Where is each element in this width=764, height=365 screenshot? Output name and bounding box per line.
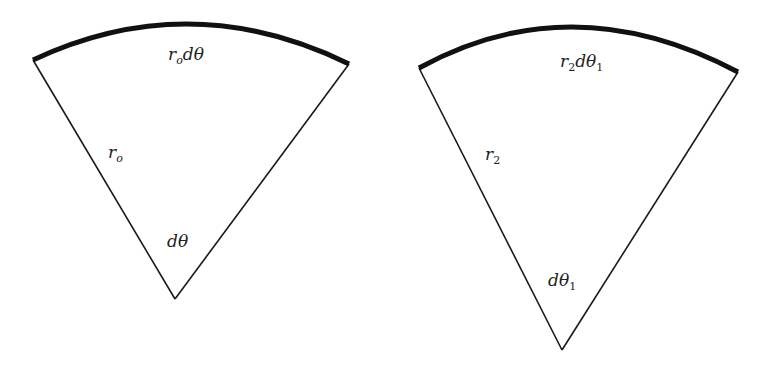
right-radius-line-2 (562, 72, 738, 350)
right-arc-label: r2dθ1 (560, 51, 603, 74)
left-radius-line-1 (33, 60, 175, 299)
sector-left: rodθ ro dθ (33, 24, 349, 299)
left-angle-label: dθ (167, 231, 188, 251)
left-radius-line-2 (175, 64, 349, 299)
sector-diagram: rodθ ro dθ r2dθ1 r2 dθ1 (0, 0, 764, 365)
left-arc-label: rodθ (168, 44, 204, 67)
right-radius-label: r2 (485, 144, 500, 167)
left-radius-label: ro (108, 142, 123, 165)
sector-right: r2dθ1 r2 dθ1 (419, 27, 738, 350)
right-angle-label: dθ1 (548, 270, 576, 293)
right-radius-line-1 (419, 68, 562, 350)
